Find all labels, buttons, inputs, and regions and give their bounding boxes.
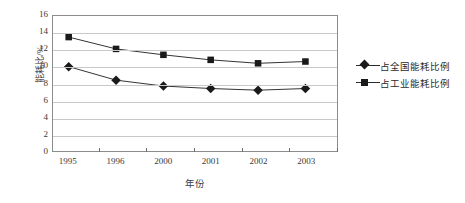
x-tick-label: 2001 bbox=[191, 156, 231, 166]
data-point-marker bbox=[253, 85, 263, 94]
data-point-marker bbox=[111, 75, 121, 84]
gridline bbox=[53, 33, 337, 34]
y-tick-label: 16 bbox=[26, 10, 48, 19]
y-tick-label: 12 bbox=[26, 44, 48, 53]
plot-area bbox=[52, 15, 338, 152]
legend-line bbox=[356, 82, 380, 83]
legend-entry-1[interactable]: 占全国能耗比例 bbox=[356, 57, 464, 74]
line-chart-figure: 能耗比/% 1614121086420 19951996200020012002… bbox=[0, 0, 465, 203]
legend-diamond-icon bbox=[356, 60, 380, 71]
x-tickmark bbox=[242, 148, 243, 152]
x-axis-tick-labels: 199519962000200120022003 bbox=[52, 152, 338, 172]
data-point-marker bbox=[160, 52, 167, 59]
legend-label: 占全国能耗比例 bbox=[380, 59, 450, 73]
x-tickmark bbox=[146, 148, 147, 152]
x-tick-label: 1995 bbox=[48, 156, 88, 166]
gridline bbox=[53, 102, 337, 103]
x-tickmark bbox=[194, 148, 195, 152]
series-lines-and-markers bbox=[53, 16, 337, 151]
chart-legend: 占全国能耗比例占工业能耗比例 bbox=[356, 57, 464, 91]
y-tick-label: 10 bbox=[26, 61, 48, 70]
x-tick-label: 2003 bbox=[286, 156, 326, 166]
square-icon bbox=[361, 79, 368, 86]
y-tick-label: 2 bbox=[26, 130, 48, 139]
x-tickmark bbox=[337, 148, 338, 152]
data-point-marker bbox=[65, 34, 72, 41]
series-line-1 bbox=[69, 67, 306, 91]
x-tick-label: 2002 bbox=[239, 156, 279, 166]
data-point-marker bbox=[207, 57, 214, 64]
data-point-marker bbox=[255, 60, 262, 67]
gridline bbox=[53, 67, 337, 68]
x-tick-label: 2000 bbox=[143, 156, 183, 166]
gridline bbox=[53, 136, 337, 137]
legend-entry-2[interactable]: 占工业能耗比例 bbox=[356, 74, 464, 91]
gridline bbox=[53, 50, 337, 51]
gridline bbox=[53, 119, 337, 120]
x-tickmark bbox=[99, 148, 100, 152]
data-point-marker bbox=[159, 81, 169, 90]
y-tick-label: 8 bbox=[26, 79, 48, 88]
x-tick-label: 1996 bbox=[96, 156, 136, 166]
y-tick-label: 14 bbox=[26, 27, 48, 36]
y-axis-tick-labels: 1614121086420 bbox=[24, 0, 48, 203]
y-tick-label: 4 bbox=[26, 113, 48, 122]
diamond-icon bbox=[360, 60, 370, 70]
legend-label: 占工业能耗比例 bbox=[380, 76, 450, 90]
y-tick-label: 6 bbox=[26, 96, 48, 105]
x-axis-title: 年份 bbox=[52, 176, 338, 190]
gridline bbox=[53, 85, 337, 86]
data-point-marker bbox=[302, 58, 309, 65]
x-tickmark bbox=[289, 148, 290, 152]
legend-square-icon bbox=[356, 77, 380, 88]
y-tick-label: 0 bbox=[26, 147, 48, 156]
